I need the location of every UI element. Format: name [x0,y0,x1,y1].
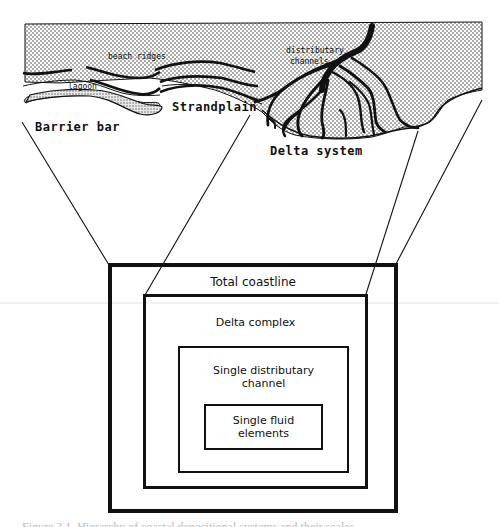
single-distributary-channel-label: Single distributary channel [180,364,347,390]
figure-caption: Figure 2.1. Hierarchy of coastal deposit… [22,519,492,527]
barrier-bar-label: Barrier bar [35,121,120,133]
distributary-channels-label-line1: distributary [286,47,344,55]
delta-complex-label: Delta complex [146,316,365,329]
lagoon-label: lagoon [68,83,97,91]
single-fluid-elements-label: Single fluid elements [206,414,321,440]
distributary-channels-label-line2: channels [290,58,329,66]
delta-system-label: Delta system [270,145,363,157]
strandplain-label: Strandplain [172,101,257,113]
beach-ridges-label: beach ridges [108,53,166,61]
coastal-hierarchy-diagram: beach ridges lagoon distributary channel… [0,0,499,527]
single-fluid-elements-box: Single fluid elements [204,404,323,450]
total-coastline-label: Total coastline [112,276,394,289]
